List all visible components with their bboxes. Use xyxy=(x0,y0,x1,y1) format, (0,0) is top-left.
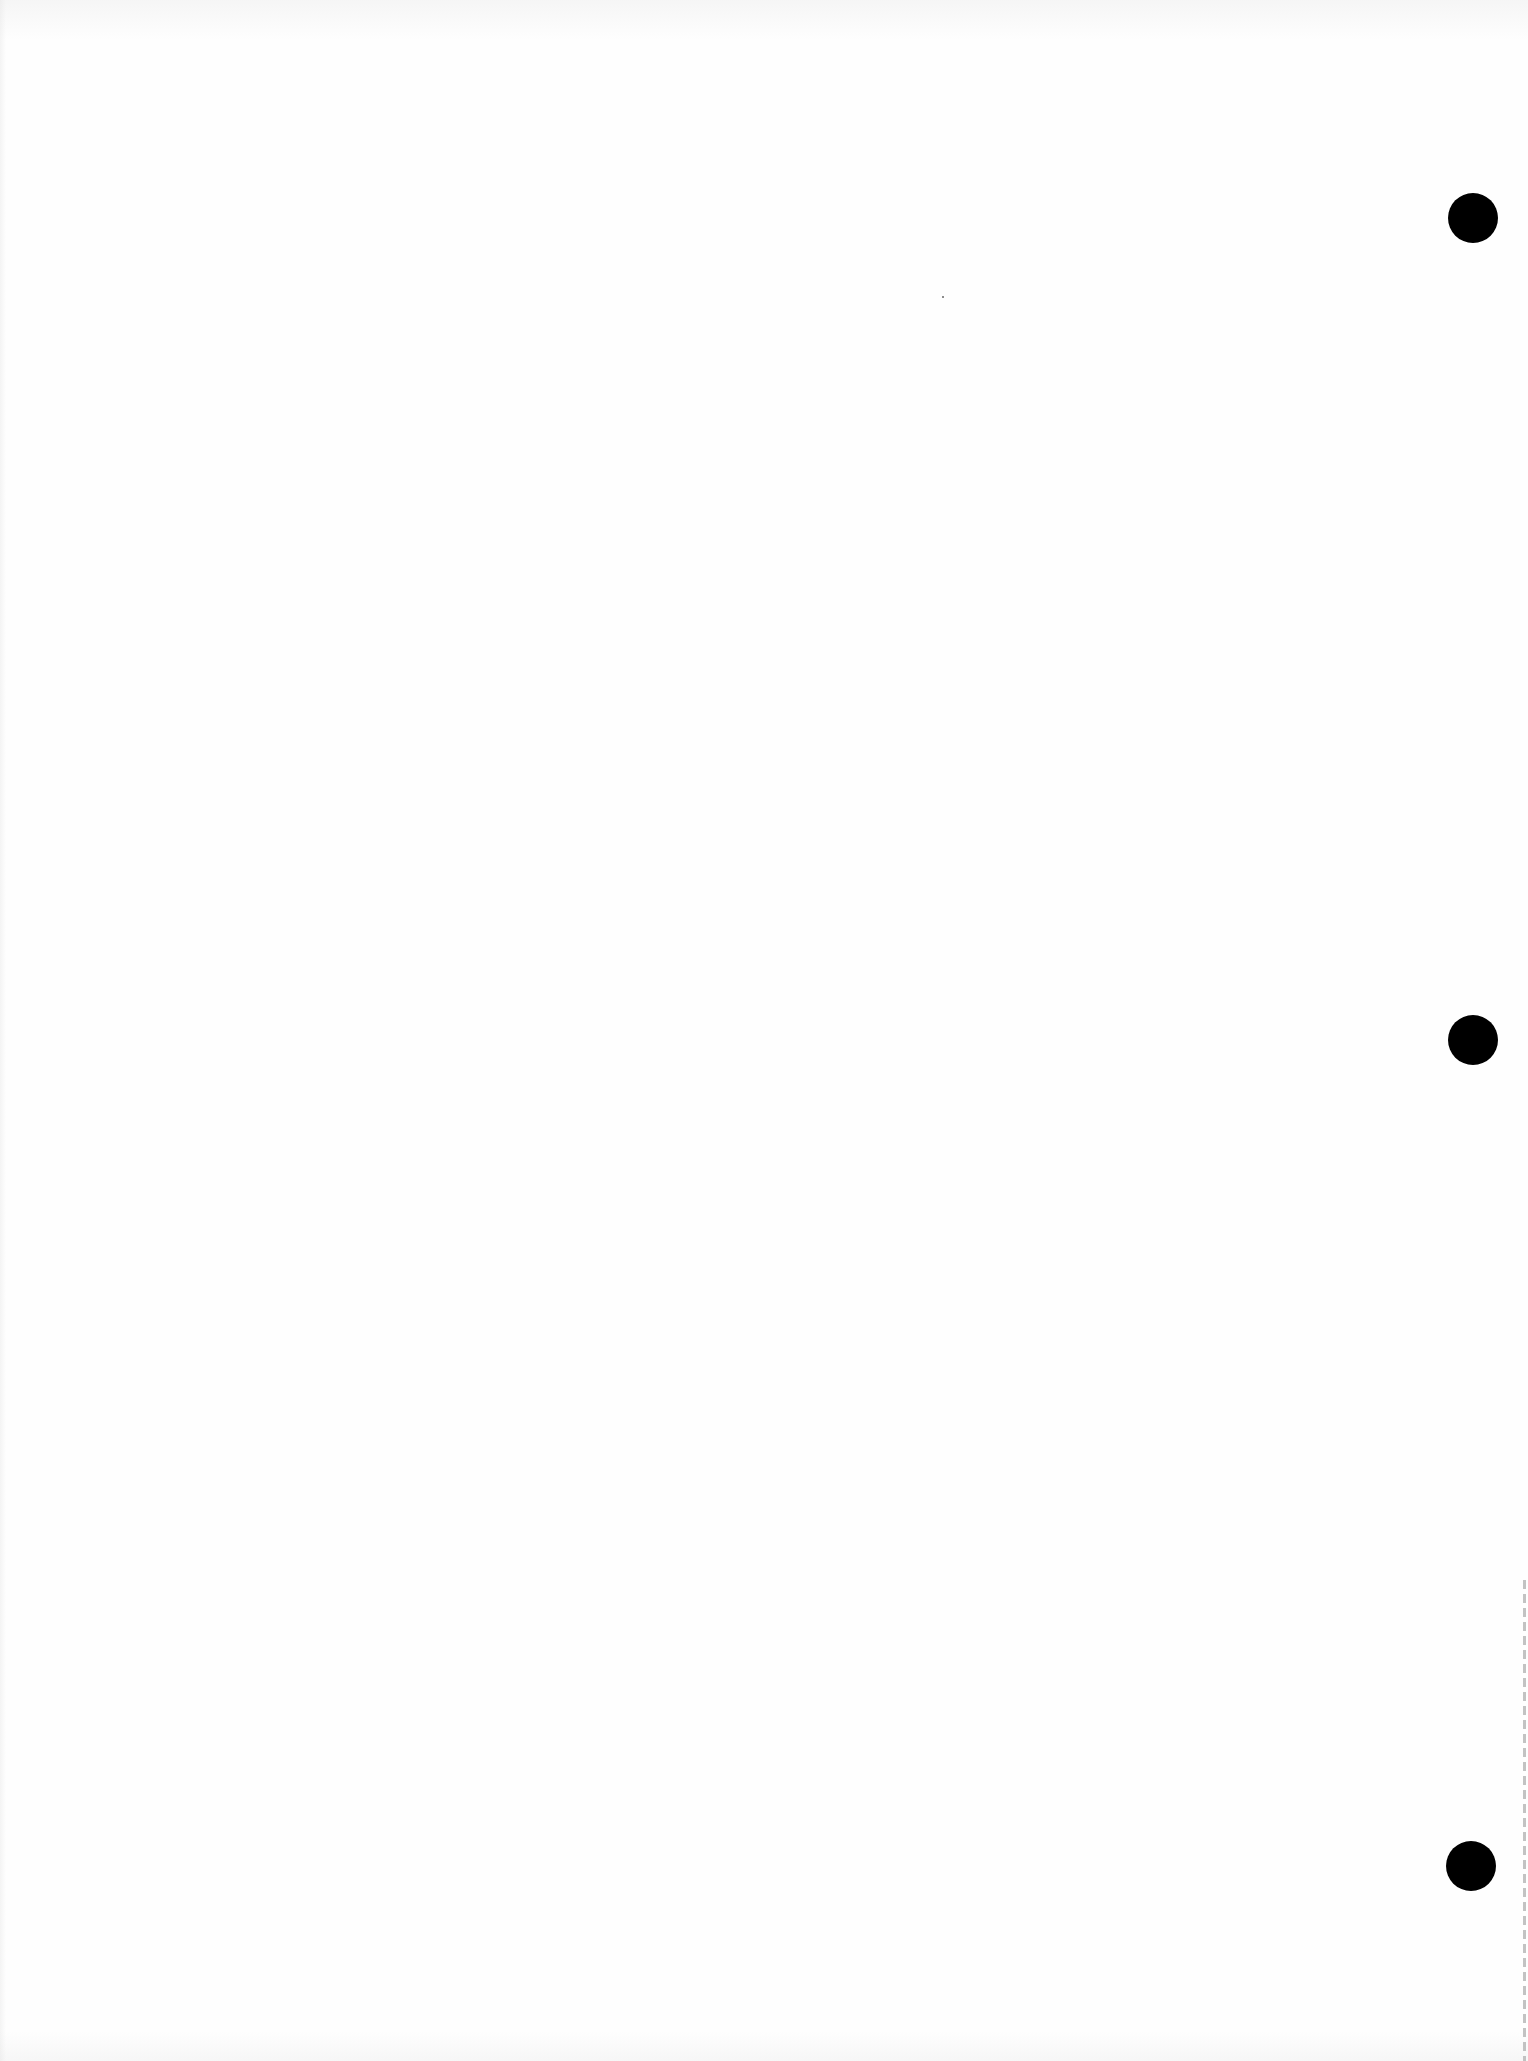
punch-hole-top xyxy=(1448,193,1498,243)
scanned-page xyxy=(0,0,1528,2061)
punch-hole-bottom xyxy=(1446,1841,1496,1891)
scan-shadow-bottom xyxy=(0,2031,1528,2061)
scan-shadow-left xyxy=(0,0,6,2061)
punch-hole-middle xyxy=(1448,1015,1498,1065)
scan-shadow-top xyxy=(0,0,1528,40)
perforated-edge xyxy=(1523,1580,1526,2061)
scan-speck xyxy=(942,296,944,298)
